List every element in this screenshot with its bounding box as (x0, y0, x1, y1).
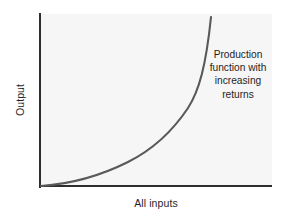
curve-path (41, 17, 211, 186)
curve-annotation: Production function with increasing retu… (197, 48, 279, 101)
annotation-line-3: increasing (197, 74, 279, 87)
annotation-line-2: function with (197, 61, 279, 74)
annotation-line-4: returns (197, 88, 279, 101)
x-axis-title-text: All inputs (134, 197, 178, 209)
x-axis-title: All inputs (40, 197, 272, 209)
production-function-figure: Output All inputs Production function wi… (0, 0, 284, 218)
annotation-line-1: Production (197, 48, 279, 61)
y-axis-title-text: Output (14, 84, 26, 116)
y-axis-title: Output (0, 80, 50, 120)
